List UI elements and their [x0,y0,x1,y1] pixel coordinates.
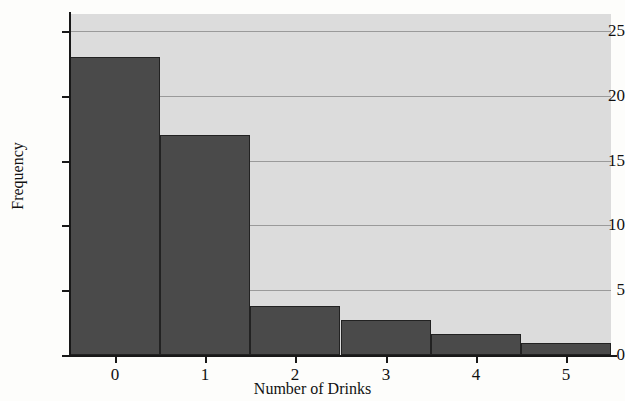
y-tick-label: 0 [579,346,625,363]
x-tick-mark [115,355,117,363]
y-tick-label: 15 [579,152,625,169]
y-tick-mark [62,355,71,357]
y-tick-label: 20 [579,87,625,104]
x-tick-mark [386,355,388,363]
x-axis-title: Number of Drinks [0,381,625,397]
bar [250,306,340,355]
x-tick-mark [205,355,207,363]
bar [160,135,250,355]
x-tick-mark [566,355,568,363]
x-tick-mark [295,355,297,363]
y-axis-title: Frequency [10,106,26,246]
bar [431,334,521,355]
y-tick-mark [62,225,71,227]
y-tick-label: 5 [579,281,625,298]
gridline [70,31,611,32]
y-tick-label: 25 [579,22,625,39]
y-tick-label: 10 [579,216,625,233]
x-tick-mark [476,355,478,363]
bar [70,57,160,355]
plot-area [70,14,611,355]
y-tick-mark [62,290,71,292]
y-axis-line [69,12,71,357]
y-tick-mark [62,161,71,163]
y-tick-mark [62,31,71,33]
bar [341,320,431,355]
histogram-chart: 0510152025 012345 Number of Drinks Frequ… [0,0,625,401]
y-tick-mark [62,96,71,98]
x-axis-line [64,355,617,357]
